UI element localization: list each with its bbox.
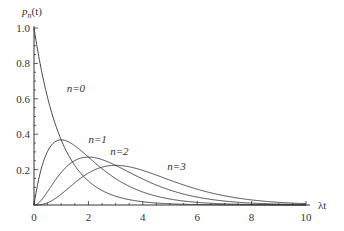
x-tick-label: 6 bbox=[194, 211, 200, 223]
y-tick-label: 0.8 bbox=[16, 57, 30, 69]
y-axis-title: pn(t) bbox=[21, 5, 42, 20]
curve-n0 bbox=[34, 28, 306, 205]
curves bbox=[34, 28, 306, 205]
curve-label-n2: n=2 bbox=[110, 145, 129, 157]
x-tick-label: 0 bbox=[31, 211, 37, 223]
x-tick-label: 2 bbox=[86, 211, 92, 223]
y-tick-label: 1.0 bbox=[16, 22, 30, 34]
y-tick-label: 0.6 bbox=[16, 93, 30, 105]
curve-label-n3: n=3 bbox=[167, 160, 186, 172]
curve-n1 bbox=[34, 140, 306, 205]
curve-label-n0: n=0 bbox=[67, 82, 86, 94]
x-axis-title: λt bbox=[318, 199, 326, 211]
y-tick-label: 0.4 bbox=[16, 128, 30, 140]
poisson-chart: 02468100.20.40.60.81.0pn(t)λt n=0n=1n=2n… bbox=[0, 0, 344, 231]
x-tick-label: 10 bbox=[301, 211, 313, 223]
x-tick-label: 8 bbox=[249, 211, 255, 223]
y-tick-label: 0.2 bbox=[16, 164, 30, 176]
labels: n=0n=1n=2n=3 bbox=[67, 82, 187, 172]
x-tick-label: 4 bbox=[140, 211, 146, 223]
curve-label-n1: n=1 bbox=[88, 133, 106, 145]
